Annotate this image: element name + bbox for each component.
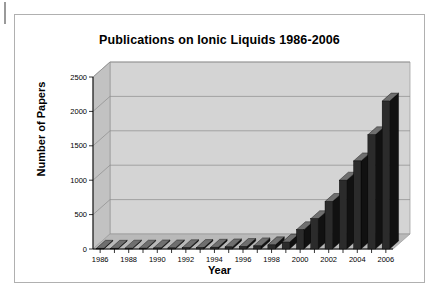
x-tick-label: 2004 xyxy=(349,255,366,264)
x-tick-label: 1988 xyxy=(120,255,137,264)
y-tick-label: 2500 xyxy=(70,73,87,82)
y-tick-label: 2000 xyxy=(70,107,87,116)
y-tick-label: 500 xyxy=(74,210,87,219)
bar-column xyxy=(368,127,384,249)
chart-figure: Publications on Ionic Liquids 1986-2006 … xyxy=(14,14,425,283)
x-tick-label: 1996 xyxy=(235,255,252,264)
bar-column xyxy=(354,153,370,249)
x-tick-label: 1986 xyxy=(92,255,109,264)
x-tick-label: 2002 xyxy=(320,255,337,264)
x-tick-label: 1992 xyxy=(178,255,195,264)
bar-column xyxy=(325,194,341,249)
y-axis-title: Number of Papers xyxy=(35,59,47,199)
bar-chart-svg: 0500100015002000250019861988199019921994… xyxy=(63,49,413,269)
bar-column xyxy=(311,211,327,249)
y-tick-label: 0 xyxy=(83,245,87,254)
chart-title: Publications on Ionic Liquids 1986-2006 xyxy=(15,33,424,47)
x-tick-label: 2006 xyxy=(378,255,395,264)
bar-column xyxy=(339,172,355,249)
x-tick-label: 1994 xyxy=(206,255,223,264)
x-tick-label: 2000 xyxy=(292,255,309,264)
y-tick-label: 1000 xyxy=(70,176,87,185)
x-tick-label: 1998 xyxy=(263,255,280,264)
x-tick-label: 1990 xyxy=(149,255,166,264)
y-tick-label: 1500 xyxy=(70,141,87,150)
plot-left-wall xyxy=(93,62,110,249)
bar-column xyxy=(382,93,398,249)
page-scan-artifact xyxy=(4,2,6,24)
plot-area: 0500100015002000250019861988199019921994… xyxy=(63,49,413,269)
